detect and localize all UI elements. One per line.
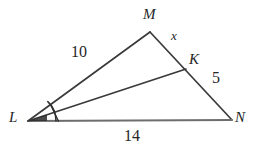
vertex-label-K: K — [189, 52, 199, 67]
vertex-label-L: L — [9, 110, 17, 125]
side-length-label-LN: 14 — [124, 128, 140, 144]
segment-LK-bisector — [28, 69, 186, 121]
geometry-figure: M L N K 10 x 5 14 — [0, 0, 261, 153]
side-length-label-KN: 5 — [212, 70, 220, 86]
segment-LM — [28, 32, 150, 121]
side-length-label-LM: 10 — [71, 44, 87, 60]
side-length-label-MK: x — [171, 29, 177, 42]
vertex-label-N: N — [235, 110, 245, 125]
vertex-label-M: M — [143, 7, 156, 22]
